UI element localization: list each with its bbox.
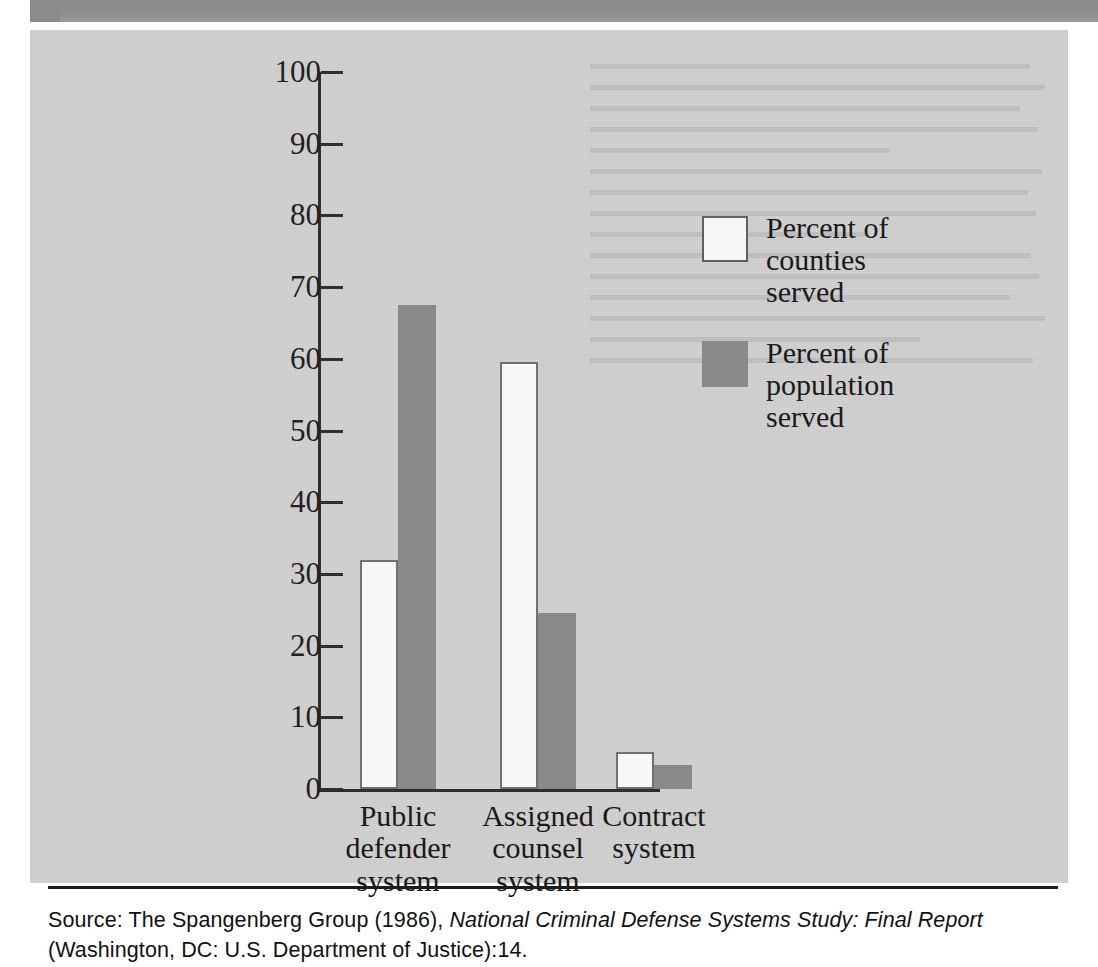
- y-axis-tick: [321, 358, 343, 361]
- y-axis-tick-label: 10: [261, 701, 321, 732]
- bar-counties-2: [500, 362, 538, 789]
- legend-swatch-grey: [702, 341, 748, 387]
- y-axis-tick-label: 80: [261, 199, 321, 230]
- y-axis-tick-label: 20: [261, 630, 321, 661]
- legend-label-counties-line1: Percent of: [766, 212, 888, 244]
- legend-label-counties-line2: counties: [766, 244, 888, 276]
- y-axis-tick: [321, 788, 343, 791]
- source-prefix: Source: The Spangenberg Group (1986),: [48, 908, 449, 932]
- source-note: Source: The Spangenberg Group (1986), Na…: [48, 886, 1058, 965]
- y-axis-tick-label: 50: [261, 415, 321, 446]
- bar-counties-1: [360, 560, 398, 789]
- bar-counties-3: [616, 752, 654, 789]
- bar-population-2: [538, 613, 576, 789]
- legend-swatch-white: [702, 216, 748, 262]
- legend-label-population-line1: Percent of: [766, 337, 894, 369]
- chart-legend: Percent of counties served Percent of po…: [702, 212, 1002, 463]
- legend-item-counties: Percent of counties served: [702, 212, 1002, 307]
- y-axis-tick: [321, 645, 343, 648]
- bar-population-3: [654, 765, 692, 789]
- legend-item-population: Percent of population served: [702, 337, 1002, 432]
- y-axis-tick-label: 100: [261, 56, 321, 87]
- y-axis-tick-label: 40: [261, 486, 321, 517]
- y-axis-tick: [321, 71, 343, 74]
- y-axis-tick-label: 90: [261, 128, 321, 159]
- category-label-line: Contract: [559, 800, 749, 832]
- figure-panel: 0102030405060708090100Publicdefendersyst…: [30, 30, 1068, 883]
- legend-label-population-line2: population: [766, 369, 894, 401]
- legend-label-population: Percent of population served: [766, 337, 894, 432]
- y-axis-tick: [321, 286, 343, 289]
- source-title: National Criminal Defense Systems Study:…: [449, 908, 982, 932]
- y-axis-tick-label: 70: [261, 271, 321, 302]
- page-top-band-shade: [60, 0, 1098, 22]
- y-axis-tick-label: 30: [261, 558, 321, 589]
- x-axis-line: [318, 789, 660, 792]
- y-axis-tick: [321, 501, 343, 504]
- page-top-band: [30, 0, 1068, 22]
- y-axis-tick-label: 60: [261, 343, 321, 374]
- category-label-line: system: [559, 832, 749, 864]
- legend-label-counties-line3: served: [766, 276, 888, 308]
- category-label-3: Contractsystem: [559, 800, 749, 865]
- bar-population-1: [398, 305, 436, 789]
- source-text: Source: The Spangenberg Group (1986), Na…: [48, 906, 1058, 965]
- legend-label-counties: Percent of counties served: [766, 212, 888, 307]
- y-axis-tick: [321, 573, 343, 576]
- y-axis-tick: [321, 214, 343, 217]
- source-divider: [48, 886, 1058, 889]
- y-axis-tick: [321, 430, 343, 433]
- legend-label-population-line3: served: [766, 401, 894, 433]
- y-axis-tick: [321, 716, 343, 719]
- source-suffix: (Washington, DC: U.S. Department of Just…: [48, 938, 528, 962]
- y-axis-tick: [321, 143, 343, 146]
